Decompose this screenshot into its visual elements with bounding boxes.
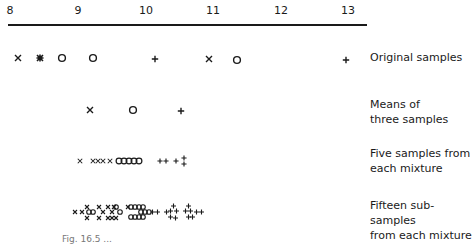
row-label-means: Means of three samples xyxy=(370,97,448,127)
circle-marker-icon xyxy=(90,55,97,62)
star-marker-icon xyxy=(37,55,44,62)
row-label-fifteen-subsamples: Fifteen sub-samples from each mixture xyxy=(370,198,472,243)
cross-marker-icon xyxy=(206,56,212,62)
cross-marker-icon xyxy=(15,55,21,61)
row-fifteen-subsamples-marks xyxy=(73,204,204,221)
circle-marker-icon xyxy=(234,57,241,64)
row-label-five-samples: Five samples from each mixture xyxy=(370,146,470,176)
plus-marker-icon xyxy=(343,57,349,63)
row-means-marks xyxy=(87,107,184,115)
plus-marker-icon xyxy=(178,108,184,114)
cross-marker-icon xyxy=(87,107,93,113)
row-original-samples-marks xyxy=(15,55,349,64)
circle-marker-icon xyxy=(59,55,66,62)
circle-marker-icon xyxy=(130,107,137,114)
plus-marker-icon xyxy=(152,56,158,62)
row-label-original-samples: Original samples xyxy=(370,50,462,65)
row-five-samples-marks xyxy=(78,155,187,166)
figure-caption: Fig. 16.5 ... xyxy=(62,234,112,244)
